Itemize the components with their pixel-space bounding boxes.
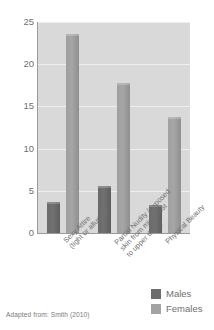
x-axis-category-labels: Sexy Attire(tight or alluring)Partial Nu… xyxy=(0,0,214,330)
x-axis-label-1: Sexy Attire(tight or alluring) xyxy=(62,202,111,251)
source-note: Adapted from: Smith (2010) xyxy=(6,311,90,319)
x-axis-label-2: Partial Nudity (exposedskin from mid che… xyxy=(113,188,184,259)
chart-legend: MalesFemales xyxy=(151,288,213,318)
bar-chart-figure: 0510152025 Sexy Attire(tight or alluring… xyxy=(0,0,214,330)
legend-item-males[interactable]: Males xyxy=(151,288,213,299)
legend-item-females[interactable]: Females xyxy=(151,303,213,314)
males-swatch xyxy=(151,289,161,299)
legend-label: Males xyxy=(166,289,191,299)
females-swatch xyxy=(151,304,161,314)
legend-label: Females xyxy=(166,304,202,314)
